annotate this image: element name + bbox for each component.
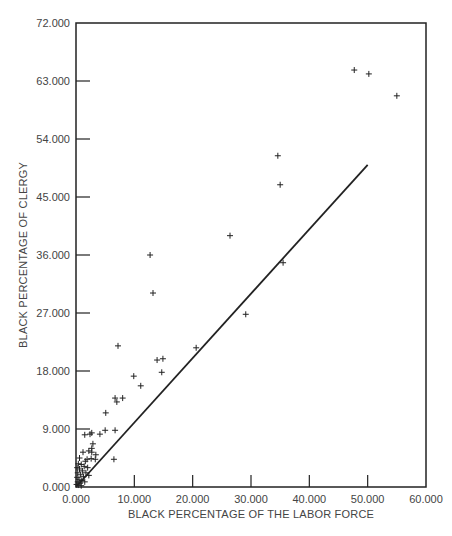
plus-marker: [394, 93, 400, 99]
y-axis-title: BLACK PERCENTAGE OF CLERGY: [17, 162, 29, 348]
plus-marker: [160, 356, 166, 362]
x-tick-label: 20.000: [176, 493, 210, 505]
y-axis-ticks: 0.0009.00018.00027.00036.00045.00054.000…: [36, 17, 90, 493]
plot-frame: [76, 23, 426, 487]
plus-marker: [111, 456, 117, 462]
plus-marker: [138, 383, 144, 389]
scatter-chart: 0.00010.00020.00030.00040.00050.00060.00…: [0, 0, 452, 536]
plus-marker: [115, 343, 121, 349]
plus-marker: [97, 431, 103, 437]
plus-marker: [77, 455, 83, 461]
plus-marker: [112, 427, 118, 433]
plus-marker: [85, 465, 91, 471]
plus-marker: [90, 441, 96, 447]
plus-marker: [150, 290, 156, 296]
plus-marker: [366, 71, 372, 77]
plus-marker: [275, 153, 281, 159]
plus-marker: [154, 357, 160, 363]
y-tick-label: 9.000: [42, 423, 70, 435]
plus-marker: [193, 345, 199, 351]
data-points: [74, 67, 400, 489]
x-axis-ticks: 0.00010.00020.00030.00040.00050.00060.00…: [62, 475, 443, 505]
plus-marker: [88, 456, 94, 462]
plus-marker: [227, 233, 233, 239]
y-tick-label: 54.000: [36, 133, 70, 145]
y-tick-label: 63.000: [36, 75, 70, 87]
x-tick-label: 40.000: [293, 493, 327, 505]
plus-marker: [92, 456, 98, 462]
x-tick-label: 0.000: [62, 493, 90, 505]
x-tick-label: 10.000: [118, 493, 152, 505]
x-tick-label: 60.000: [409, 493, 443, 505]
x-tick-label: 50.000: [351, 493, 385, 505]
plus-marker: [131, 373, 137, 379]
y-tick-label: 45.000: [36, 191, 70, 203]
plus-marker: [82, 432, 88, 438]
y-tick-label: 72.000: [36, 17, 70, 29]
plus-marker: [243, 311, 249, 317]
y-tick-label: 18.000: [36, 365, 70, 377]
plus-marker: [277, 182, 283, 188]
y-tick-label: 36.000: [36, 249, 70, 261]
plus-marker: [120, 395, 126, 401]
y-tick-label: 0.000: [42, 481, 70, 493]
y-tick-label: 27.000: [36, 307, 70, 319]
plus-marker: [147, 252, 153, 258]
plus-marker: [80, 449, 86, 455]
plus-marker: [103, 410, 109, 416]
plus-marker: [159, 369, 165, 375]
plus-marker: [351, 67, 357, 73]
x-axis-title: BLACK PERCENTAGE OF THE LABOR FORCE: [128, 508, 374, 520]
reference-line: [76, 165, 368, 487]
x-tick-label: 30.000: [234, 493, 268, 505]
plus-marker: [102, 427, 108, 433]
parity-reference-line: [76, 165, 368, 487]
